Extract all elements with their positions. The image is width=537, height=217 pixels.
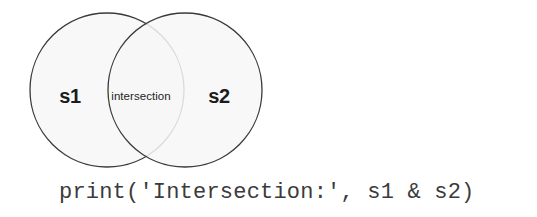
left-set-label: s1 bbox=[59, 85, 81, 108]
code-snippet-line: print('Intersection:', s1 & s2) bbox=[59, 180, 474, 206]
venn-diagram: s1 intersection s2 bbox=[0, 0, 300, 180]
venn-intersection-figure: s1 intersection s2 print('Intersection:'… bbox=[0, 0, 537, 217]
right-set-label: s2 bbox=[208, 85, 230, 108]
intersection-region-label: intersection bbox=[111, 90, 170, 102]
